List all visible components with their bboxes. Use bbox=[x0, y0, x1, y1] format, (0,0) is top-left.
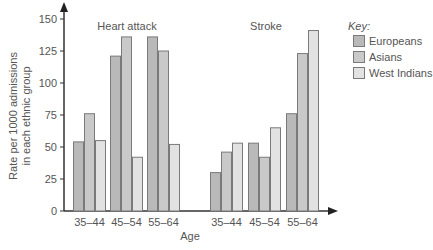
bar bbox=[170, 144, 180, 211]
bar bbox=[233, 143, 243, 211]
panel-title: Stroke bbox=[250, 20, 282, 32]
y-tick-label: 75 bbox=[45, 109, 57, 121]
bar bbox=[133, 157, 143, 211]
bar bbox=[271, 128, 281, 211]
y-tick-label: 125 bbox=[39, 45, 57, 57]
x-tick-label: 45–54 bbox=[249, 216, 280, 228]
x-tick-label: 35–44 bbox=[74, 216, 105, 228]
bar bbox=[85, 114, 95, 211]
legend-label: West Indians bbox=[369, 67, 433, 79]
bar bbox=[122, 37, 132, 211]
legend-label: Asians bbox=[369, 51, 403, 63]
bar bbox=[298, 54, 308, 211]
bar bbox=[211, 173, 221, 211]
bar bbox=[260, 157, 270, 211]
legend-title: Key: bbox=[348, 20, 370, 32]
panel-title: Heart attack bbox=[97, 20, 157, 32]
legend-swatch bbox=[354, 68, 365, 79]
x-tick-label: 55–64 bbox=[287, 216, 318, 228]
bar bbox=[249, 143, 259, 211]
bar bbox=[74, 142, 84, 211]
bar bbox=[96, 141, 106, 211]
y-tick-label: 0 bbox=[51, 205, 57, 217]
legend-swatch bbox=[354, 36, 365, 47]
legend: Key:EuropeansAsiansWest Indians bbox=[348, 20, 433, 79]
y-tick-label: 100 bbox=[39, 77, 57, 89]
x-tick-label: 55–64 bbox=[148, 216, 179, 228]
bar bbox=[159, 51, 169, 211]
y-axis-arrow-icon bbox=[60, 2, 68, 12]
x-axis-arrow-icon bbox=[328, 207, 338, 215]
y-tick-label: 150 bbox=[39, 13, 57, 25]
bar bbox=[287, 114, 297, 211]
y-axis: 0255075100125150Rate per 1000 admissions… bbox=[7, 2, 68, 217]
bar bbox=[309, 31, 319, 211]
x-axis-title: Age bbox=[180, 230, 200, 242]
legend-swatch bbox=[354, 52, 365, 63]
legend-label: Europeans bbox=[369, 35, 423, 47]
bar bbox=[111, 56, 121, 211]
y-axis-title: Rate per 1000 admissionsin each ethnic g… bbox=[7, 52, 32, 180]
bars bbox=[74, 31, 319, 211]
bar bbox=[222, 152, 232, 211]
y-tick-label: 50 bbox=[45, 141, 57, 153]
bar-chart: 0255075100125150Rate per 1000 admissions… bbox=[0, 0, 433, 250]
x-tick-label: 35–44 bbox=[211, 216, 242, 228]
x-tick-label: 45–54 bbox=[111, 216, 142, 228]
y-tick-label: 25 bbox=[45, 173, 57, 185]
bar bbox=[148, 37, 158, 211]
